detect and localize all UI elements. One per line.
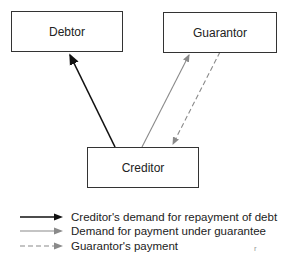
gray-solid-arrow-icon <box>20 226 64 236</box>
guarantor-box: Guarantor <box>163 12 277 53</box>
debtor-label: Debtor <box>49 25 85 39</box>
legend-item-guarantee-demand: Demand for payment under guarantee <box>20 224 266 238</box>
stray-mark: r <box>254 244 257 253</box>
black-solid-arrow-icon <box>20 212 64 222</box>
debtor-box: Debtor <box>11 11 123 52</box>
legend-label: Guarantor's payment <box>71 240 178 252</box>
guarantor-to-creditor-dashed-arrow <box>173 52 220 144</box>
creditor-label: Creditor <box>122 161 165 175</box>
legend-label: Creditor's demand for repayment of debt <box>71 211 277 223</box>
creditor-to-debtor-arrow <box>70 55 115 147</box>
legend-item-creditor-demand: Creditor's demand for repayment of debt <box>20 210 277 224</box>
legend-item-guarantor-payment: Guarantor's payment <box>20 239 178 253</box>
creditor-to-guarantor-arrow <box>142 55 189 147</box>
gray-dashed-arrow-icon <box>20 241 64 251</box>
guarantor-label: Guarantor <box>193 26 247 40</box>
creditor-box: Creditor <box>87 147 199 188</box>
legend-label: Demand for payment under guarantee <box>71 225 266 237</box>
